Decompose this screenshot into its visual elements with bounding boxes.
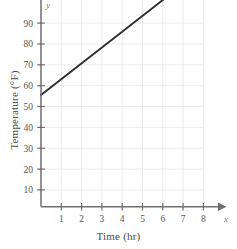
chart-plot-area: 90 80 70 60 50 40 30 20 10 1 2 3 4 5 6 7…	[0, 0, 237, 249]
x-axis-title: Time (hr)	[0, 230, 237, 242]
x-tick-label-3: 3	[100, 214, 105, 224]
y-tick-label-70: 70	[24, 60, 34, 70]
y-tick-label-30: 30	[24, 144, 34, 154]
y-axis-title: Temperature (°F)	[8, 40, 20, 180]
vertical-gridlines	[61, 0, 203, 207]
y-tick-label-80: 80	[24, 39, 34, 49]
temperature-time-chart: 90 80 70 60 50 40 30 20 10 1 2 3 4 5 6 7…	[0, 0, 237, 249]
x-tick-label-2: 2	[79, 214, 84, 224]
x-tick-label-8: 8	[201, 214, 206, 224]
y-tick-label-40: 40	[24, 123, 34, 133]
x-axis-variable-label: x	[223, 214, 228, 224]
y-axis-variable-label: y	[45, 0, 50, 10]
x-tick-label-5: 5	[140, 214, 145, 224]
x-tick-label-4: 4	[120, 214, 125, 224]
x-axis-tick-labels: 1 2 3 4 5 6 7 8	[59, 214, 206, 224]
y-axis-tick-labels: 90 80 70 60 50 40 30 20 10	[24, 19, 34, 196]
x-tick-label-7: 7	[181, 214, 186, 224]
y-tick-label-60: 60	[24, 81, 34, 91]
x-axis-arrow-icon	[218, 203, 227, 211]
x-tick-label-6: 6	[160, 214, 165, 224]
y-tick-label-10: 10	[24, 185, 34, 195]
y-tick-label-20: 20	[24, 165, 34, 175]
x-tick-label-1: 1	[59, 214, 64, 224]
y-tick-label-90: 90	[24, 19, 34, 29]
y-tick-label-50: 50	[24, 102, 34, 112]
